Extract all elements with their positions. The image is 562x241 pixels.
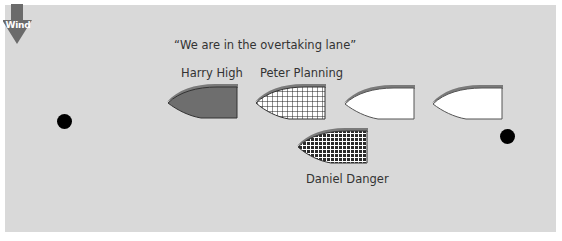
boat-daniel-danger-icon (295, 126, 371, 168)
boat-label-harry-high: Harry High (181, 66, 243, 80)
left-mark-icon (57, 114, 72, 129)
quote-text: “We are in the overtaking lane” (174, 38, 356, 52)
boat-harry-high-icon (165, 82, 241, 122)
right-mark-icon (500, 129, 515, 144)
wind-label: Wind (3, 20, 33, 30)
boat-peter-planning-icon (253, 82, 329, 124)
boat-white-2-icon (430, 83, 506, 123)
boat-label-peter-planning: Peter Planning (260, 66, 343, 80)
boat-white-1-icon (342, 83, 418, 123)
boat-label-daniel-danger: Daniel Danger (306, 172, 389, 186)
diagram-stage: Wind “We are in the overtaking lane” Har… (0, 0, 562, 241)
